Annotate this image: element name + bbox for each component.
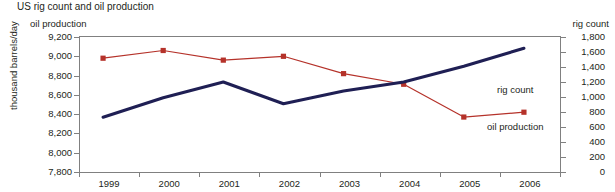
right-axis-tick: [561, 97, 566, 98]
right-axis-tick: [561, 67, 566, 68]
left-axis-tick-label: 8,400: [28, 109, 72, 119]
data-point-marker: [521, 110, 526, 115]
right-axis-title: rig count: [573, 18, 609, 29]
right-axis-tick-label: 1,000: [569, 92, 605, 102]
x-axis-tick: [380, 173, 381, 177]
x-axis-category-label: 2000: [139, 178, 199, 189]
x-axis-category-label: 2004: [380, 178, 440, 189]
left-axis-tick-label: 8,800: [28, 71, 72, 81]
right-axis-tick: [561, 172, 566, 173]
right-axis-tick-label: 1,600: [569, 47, 605, 57]
x-axis-tick: [320, 173, 321, 177]
x-axis-category-label: 1999: [79, 178, 139, 189]
right-axis-tick: [561, 142, 566, 143]
data-point-marker: [221, 58, 226, 63]
left-axis-tick-label: 8,000: [28, 148, 72, 158]
x-axis-category-label: 2003: [320, 178, 380, 189]
x-axis-tick: [440, 173, 441, 177]
right-axis-tick-label: 1,200: [569, 77, 605, 87]
series-line-rig-count: [103, 48, 524, 117]
right-axis-tick: [561, 112, 566, 113]
right-axis-tick-label: 800: [569, 107, 605, 117]
chart-container: US rig count and oil production oil prod…: [0, 0, 615, 192]
x-axis-tick: [500, 173, 501, 177]
x-axis-tick: [139, 173, 140, 177]
series-line-oil-production: [103, 51, 524, 118]
x-axis-category-label: 2002: [259, 178, 319, 189]
series-annotation-rig-count: rig count: [497, 84, 533, 95]
x-axis-tick: [79, 173, 80, 177]
series-annotation-oil-production: oil production: [487, 121, 544, 132]
right-axis-tick: [561, 82, 566, 83]
left-axis-tick-label: 9,200: [28, 32, 72, 42]
data-point-marker: [161, 48, 166, 53]
right-axis-tick-label: 400: [569, 137, 605, 147]
data-point-marker: [341, 71, 346, 76]
x-axis-tick: [259, 173, 260, 177]
plot-area: [79, 37, 560, 172]
x-axis-tick: [199, 173, 200, 177]
y-axis-label: thousand barrels/day: [8, 6, 19, 126]
right-axis-tick: [561, 157, 566, 158]
right-axis-tick: [561, 52, 566, 53]
left-axis-tick-label: 9,000: [28, 51, 72, 61]
right-axis-tick-label: 600: [569, 122, 605, 132]
left-axis-tick-label: 7,800: [28, 167, 72, 177]
left-axis-title: oil production: [30, 18, 87, 29]
x-axis-category-label: 2006: [500, 178, 560, 189]
right-axis-tick: [561, 127, 566, 128]
right-axis-tick-label: 1,800: [569, 32, 605, 42]
x-axis-category-label: 2001: [199, 178, 259, 189]
chart-title: US rig count and oil production: [17, 1, 154, 13]
x-axis-tick: [560, 173, 561, 177]
x-axis-category-label: 2005: [440, 178, 500, 189]
left-axis-tick-label: 8,600: [28, 90, 72, 100]
left-axis-tick-label: 8,200: [28, 128, 72, 138]
data-point-marker: [281, 54, 286, 59]
data-point-marker: [461, 114, 466, 119]
right-axis-tick-label: 1,400: [569, 62, 605, 72]
right-axis-line: [560, 36, 561, 173]
right-axis-tick-label: 0: [569, 167, 605, 177]
right-axis-tick-label: 200: [569, 152, 605, 162]
data-point-marker: [100, 56, 105, 61]
right-axis-tick: [561, 37, 566, 38]
